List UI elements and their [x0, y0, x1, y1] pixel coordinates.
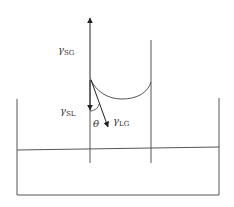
meniscus-curve: [90, 78, 151, 99]
gamma-sg-label: γSG: [58, 44, 75, 57]
theta-label: θ: [93, 118, 99, 129]
gamma-lg-label: γLG: [113, 115, 130, 128]
capillary-diagram: γSG γSL γLG θ: [0, 0, 234, 207]
container: [17, 98, 219, 195]
theta-angle-arc: [90, 104, 99, 111]
liquid-surface-line: [17, 147, 219, 150]
gamma-sl-label: γSL: [60, 105, 76, 118]
